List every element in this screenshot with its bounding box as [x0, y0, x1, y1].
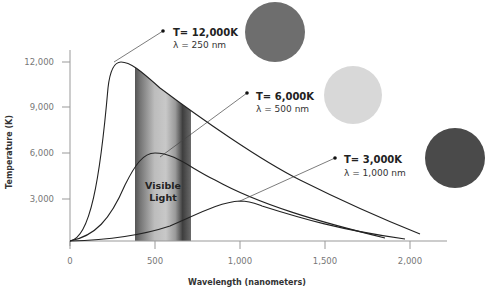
color-swatch-3000k [425, 128, 485, 188]
annotation-3000k: T= 3,000K λ = 1,000 nm [240, 128, 485, 201]
visible-label-line2: Light [149, 192, 177, 203]
x-tick-2000: 2,000 [398, 256, 422, 266]
y-tick-12000: 12,000 [24, 57, 54, 67]
x-axis: 0 500 1,000 1,500 2,000 Wavelength (nano… [67, 241, 447, 287]
x-tick-0: 0 [67, 256, 72, 266]
y-axis: 12,000 9,000 6,000 3,000 Temperature (K) [5, 50, 70, 246]
blackbody-chart: Visible Light 12,000 9,000 6,000 3,000 T… [0, 0, 487, 289]
annotation-12000k: T= 12,000K λ = 250 nm [114, 2, 305, 62]
annotation-6000k: T= 6,000K λ = 500 nm [160, 66, 382, 157]
curve-6000k [70, 153, 385, 241]
curve-3000k [70, 201, 405, 241]
y-axis-label: Temperature (K) [5, 115, 14, 189]
visible-label-line1: Visible [145, 180, 181, 191]
color-swatch-6000k [324, 66, 382, 124]
annotation-subtitle: λ = 1,000 nm [344, 168, 406, 178]
annotation-subtitle: λ = 500 nm [256, 104, 309, 114]
annotation-subtitle: λ = 250 nm [173, 40, 226, 50]
x-tick-1000: 1,000 [228, 256, 252, 266]
annotation-title: T= 6,000K [256, 91, 315, 102]
annotation-title: T= 3,000K [344, 154, 403, 165]
y-tick-6000: 6,000 [30, 148, 54, 158]
x-tick-500: 500 [147, 256, 163, 266]
y-tick-3000: 3,000 [30, 194, 54, 204]
y-tick-9000: 9,000 [30, 102, 54, 112]
annotation-title: T= 12,000K [173, 27, 239, 38]
x-axis-label: Wavelength (nanometers) [188, 278, 306, 287]
color-swatch-12000k [245, 2, 305, 62]
x-tick-1500: 1,500 [313, 256, 337, 266]
